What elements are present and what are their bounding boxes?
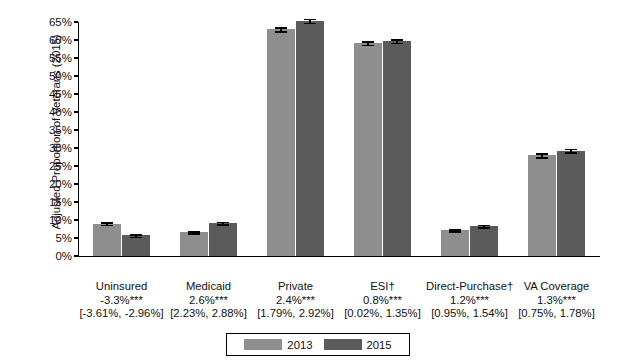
legend-swatch-2013 xyxy=(244,339,282,350)
bar-uninsured-2013 xyxy=(93,224,121,256)
error-bar-cap xyxy=(478,227,490,229)
x-axis-category-label: ESI† xyxy=(339,280,426,294)
y-axis-tick-label: 65% xyxy=(49,16,74,28)
legend-label-2015: 2015 xyxy=(367,339,392,351)
bar-vacoverage-2013 xyxy=(528,155,556,256)
bar-chart-figure: Adjusted Proportion of Veterans (2015) 0… xyxy=(0,0,636,364)
chart-legend: 20132015 xyxy=(226,333,410,356)
x-axis-group-medicaid: Medicaid2.6%***[2.23%, 2.88%] xyxy=(165,280,252,321)
error-bar-cap xyxy=(565,152,577,154)
bar-esi-2013 xyxy=(354,43,382,256)
y-axis-tick-mark xyxy=(74,165,78,166)
error-bar-cap xyxy=(536,153,548,155)
y-axis-tick: 45% xyxy=(49,88,78,100)
y-axis-tick-label: 25% xyxy=(49,160,74,172)
y-axis-tick-mark xyxy=(74,219,78,220)
y-axis-tick-label: 5% xyxy=(55,232,74,244)
error-bar-cap xyxy=(101,222,113,224)
y-axis-tick: 55% xyxy=(49,52,78,64)
y-axis-tick: 0% xyxy=(55,250,78,262)
x-axis-confidence-interval-label: [-3.61%, -2.96%] xyxy=(78,307,165,321)
error-bar-cap xyxy=(304,19,316,21)
x-axis-delta-label: 2.4%*** xyxy=(252,294,339,308)
x-axis-category-label: VA Coverage xyxy=(513,280,600,294)
bar-directpurchase-2013 xyxy=(441,230,469,256)
y-axis-tick-label: 30% xyxy=(49,142,74,154)
x-axis-category-label: Uninsured xyxy=(78,280,165,294)
y-axis-tick-mark xyxy=(74,129,78,130)
y-axis-tick-mark xyxy=(74,75,78,76)
y-axis-tick-mark xyxy=(74,147,78,148)
legend-label-2013: 2013 xyxy=(287,339,312,351)
y-axis-tick-label: 20% xyxy=(49,178,74,190)
error-bar-cap xyxy=(130,237,142,239)
x-axis-confidence-interval-label: [0.95%, 1.54%] xyxy=(426,307,513,321)
y-axis-tick-mark xyxy=(74,57,78,58)
legend-swatch-2015 xyxy=(324,339,362,350)
legend-entry-2015[interactable]: 2015 xyxy=(324,339,392,351)
x-axis-group-esi: ESI†0.8%***[0.02%, 1.35%] xyxy=(339,280,426,321)
x-axis-delta-label: 2.6%*** xyxy=(165,294,252,308)
y-axis-tick: 15% xyxy=(49,196,78,208)
error-bar-cap xyxy=(217,224,229,226)
bar-medicaid-2015 xyxy=(209,223,237,256)
x-axis-category-label: Direct-Purchase† xyxy=(426,280,513,294)
y-axis-tick: 40% xyxy=(49,106,78,118)
x-axis-category-label: Medicaid xyxy=(165,280,252,294)
y-axis-tick-label: 0% xyxy=(55,250,74,262)
y-axis-tick-mark xyxy=(74,255,78,256)
bar-private-2013 xyxy=(267,29,295,256)
bar-vacoverage-2015 xyxy=(557,151,585,256)
y-axis-tick-mark xyxy=(74,21,78,22)
error-bar-cap xyxy=(275,27,287,29)
y-axis-tick: 20% xyxy=(49,178,78,190)
y-axis-tick-label: 40% xyxy=(49,106,74,118)
y-axis-tick: 30% xyxy=(49,142,78,154)
y-axis-tick-mark xyxy=(74,111,78,112)
error-bar-cap xyxy=(188,233,200,235)
y-axis-tick-label: 15% xyxy=(49,196,74,208)
y-axis-tick-label: 50% xyxy=(49,70,74,82)
error-bar-cap xyxy=(536,157,548,159)
x-axis-delta-label: 1.2%*** xyxy=(426,294,513,308)
y-axis-tick: 60% xyxy=(49,34,78,46)
y-axis-tick: 5% xyxy=(55,232,78,244)
x-axis-group-uninsured: Uninsured-3.3%***[-3.61%, -2.96%] xyxy=(78,280,165,321)
legend-entry-2013[interactable]: 2013 xyxy=(244,339,312,351)
bar-medicaid-2013 xyxy=(180,232,208,256)
x-axis-delta-label: -3.3%*** xyxy=(78,294,165,308)
y-axis-tick: 65% xyxy=(49,16,78,28)
y-axis-tick: 25% xyxy=(49,160,78,172)
bar-directpurchase-2015 xyxy=(470,226,498,256)
y-axis-tick-mark xyxy=(74,39,78,40)
y-axis-tick-label: 45% xyxy=(49,88,74,100)
y-axis-tick-mark xyxy=(74,201,78,202)
x-axis-group-directpurchase: Direct-Purchase†1.2%***[0.95%, 1.54%] xyxy=(426,280,513,321)
y-axis-tick: 50% xyxy=(49,70,78,82)
y-axis-tick-mark xyxy=(74,237,78,238)
y-axis-tick-mark xyxy=(74,183,78,184)
y-axis-tick-label: 35% xyxy=(49,124,74,136)
x-axis-confidence-interval-label: [1.79%, 2.92%] xyxy=(252,307,339,321)
x-axis-group-private: Private2.4%***[1.79%, 2.92%] xyxy=(252,280,339,321)
error-bar-cap xyxy=(101,225,113,227)
error-bar-cap xyxy=(275,31,287,33)
x-axis-delta-label: 0.8%*** xyxy=(339,294,426,308)
x-axis-delta-label: 1.3%*** xyxy=(513,294,600,308)
plot-area: 0%5%10%15%20%25%30%35%40%45%50%55%60%65% xyxy=(78,22,600,256)
y-axis-tick: 10% xyxy=(49,214,78,226)
y-axis-tick-label: 60% xyxy=(49,34,74,46)
error-bar-cap xyxy=(391,43,403,45)
x-axis-confidence-interval-label: [0.02%, 1.35%] xyxy=(339,307,426,321)
y-axis-tick: 35% xyxy=(49,124,78,136)
error-bar-cap xyxy=(217,222,229,224)
x-axis-category-label: Private xyxy=(252,280,339,294)
bar-esi-2015 xyxy=(383,41,411,256)
error-bar-cap xyxy=(565,149,577,151)
error-bar-cap xyxy=(449,231,461,233)
bar-private-2015 xyxy=(296,21,324,256)
error-bar-cap xyxy=(362,41,374,43)
y-axis-tick-label: 10% xyxy=(49,214,74,226)
bar-uninsured-2015 xyxy=(122,235,150,256)
error-bar-cap xyxy=(362,45,374,47)
